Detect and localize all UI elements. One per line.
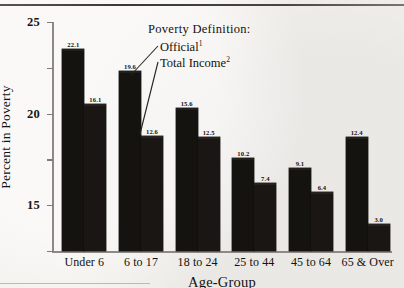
bar-total-income-18-to-24[interactable]: 12.5 xyxy=(198,137,220,252)
x-tick-label-45-to-64: 45 to 64 xyxy=(291,255,331,270)
x-tick-label-under-6: Under 6 xyxy=(64,255,104,270)
bar-total-income-45-to-64[interactable]: 6.4 xyxy=(311,192,333,251)
bar-official-18-to-24[interactable]: 15.6 xyxy=(176,108,198,251)
bar-value-label: 3.0 xyxy=(374,216,383,223)
page-rule-bottom xyxy=(0,283,150,284)
y-tick-20: 20 xyxy=(47,68,53,69)
bar-total-income-25-to-44[interactable]: 7.4 xyxy=(254,183,276,251)
bar-group: 12.43.065 & Over xyxy=(346,22,390,251)
bar-value-label: 16.1 xyxy=(89,96,101,103)
y-tick-label-25: 25 xyxy=(27,15,40,30)
bar-value-label: 7.4 xyxy=(261,175,270,182)
bar-value-label: 6.4 xyxy=(318,184,327,191)
x-axis-line xyxy=(52,251,392,253)
bar-official-25-to-44[interactable]: 10.2 xyxy=(232,158,254,251)
bar-value-label: 10.2 xyxy=(237,150,249,157)
bar-group: 10.27.425 to 44 xyxy=(232,22,276,251)
plot-area: Percent in Poverty 0510152025 22.116.1Un… xyxy=(52,22,392,252)
y-tick-label-20: 20 xyxy=(27,106,40,121)
bar-value-label: 22.1 xyxy=(67,41,79,48)
bar-value-label: 15.6 xyxy=(181,100,193,107)
bar-total-income-6-to-17[interactable]: 12.6 xyxy=(141,136,163,251)
y-tick-0: 0 xyxy=(47,251,53,252)
y-tick-label-15: 15 xyxy=(27,198,40,213)
bar-group: 22.116.1Under 6 xyxy=(62,22,106,251)
x-tick-label-18-to-24: 18 to 24 xyxy=(178,255,218,270)
y-axis-title: Percent in Poverty xyxy=(0,85,14,188)
bar-value-label: 19.6 xyxy=(124,63,136,70)
bar-value-label: 12.5 xyxy=(203,129,215,136)
x-axis-title: Age-Group xyxy=(188,274,256,288)
bar-value-label: 12.4 xyxy=(351,129,363,136)
x-tick-label-25-to-44: 25 to 44 xyxy=(234,255,274,270)
x-tick-label-65-and-over: 65 & Over xyxy=(342,255,394,270)
bar-official-65-and-over[interactable]: 12.4 xyxy=(346,137,368,251)
y-tick-25: 25 xyxy=(47,22,53,23)
bar-official-under-6[interactable]: 22.1 xyxy=(62,49,84,251)
y-tick-5: 5 xyxy=(47,205,53,206)
bar-group: 9.16.445 to 64 xyxy=(289,22,333,251)
page-rule-top xyxy=(0,4,404,6)
bar-total-income-under-6[interactable]: 16.1 xyxy=(84,104,106,251)
y-tick-15: 15 xyxy=(47,114,53,115)
x-tick-label-6-to-17: 6 to 17 xyxy=(124,255,158,270)
figure-canvas: Percent in Poverty 0510152025 22.116.1Un… xyxy=(0,0,404,288)
bar-official-45-to-64[interactable]: 9.1 xyxy=(289,168,311,251)
bar-official-6-to-17[interactable]: 19.6 xyxy=(119,71,141,251)
bar-total-income-65-and-over[interactable]: 3.0 xyxy=(368,224,390,251)
y-tick-10: 10 xyxy=(47,159,53,160)
bar-group: 15.612.518 to 24 xyxy=(176,22,220,251)
bar-value-label: 12.6 xyxy=(146,128,158,135)
y-axis-line xyxy=(52,22,54,252)
bar-group: 19.612.66 to 17 xyxy=(119,22,163,251)
bar-value-label: 9.1 xyxy=(296,160,305,167)
